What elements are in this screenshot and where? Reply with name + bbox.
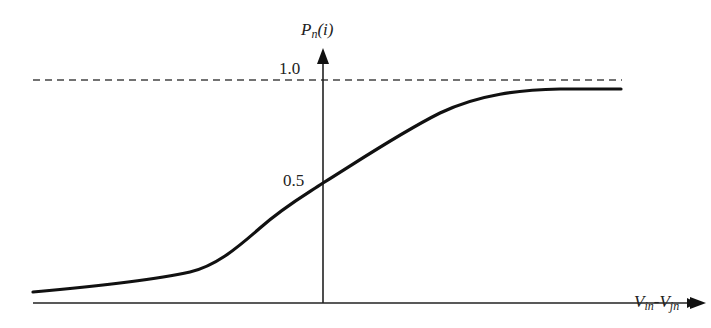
x-axis-title: Vin-Vjn bbox=[634, 292, 679, 314]
y-axis-arrow-icon bbox=[317, 48, 329, 64]
y-axis-title-main: P bbox=[301, 20, 311, 39]
x-axis-title-sub2: jn bbox=[670, 299, 679, 313]
sigmoid-curve bbox=[33, 89, 621, 292]
x-axis-title-sub1: in bbox=[644, 299, 653, 313]
y-tick-label-0-5: 0.5 bbox=[283, 171, 304, 191]
y-axis-title: Pn(i) bbox=[301, 20, 333, 42]
sigmoid-chart bbox=[0, 0, 711, 328]
x-axis-title-v2: V bbox=[659, 292, 669, 311]
y-axis-title-rest: (i) bbox=[317, 20, 333, 39]
y-tick-label-1: 1.0 bbox=[279, 59, 300, 79]
x-axis-arrow-icon bbox=[690, 297, 706, 309]
x-axis-title-v1: V bbox=[634, 292, 644, 311]
